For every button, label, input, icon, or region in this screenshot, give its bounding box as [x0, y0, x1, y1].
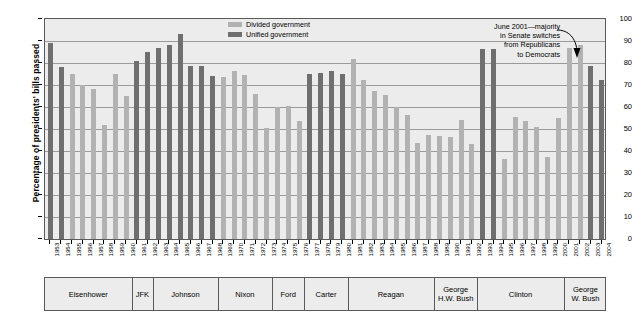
bar-2002	[578, 45, 583, 239]
president-band-label: Johnson	[171, 290, 199, 299]
bar-1975	[286, 106, 291, 239]
president-band-george-h-w-bush: George H.W. Bush	[434, 278, 477, 310]
x-year-label: 1962	[150, 243, 159, 273]
x-year-label: 1956	[85, 243, 94, 273]
bar-1966	[188, 66, 193, 239]
bar-1983	[372, 91, 377, 240]
bar-1980	[340, 74, 345, 239]
bar-1981	[351, 59, 356, 239]
x-year-label: 1986	[409, 243, 418, 273]
x-year-label: 1959	[117, 243, 126, 273]
bar-1997	[523, 121, 528, 239]
x-year-label: 1999	[550, 243, 559, 273]
y-tick-mark	[38, 84, 42, 85]
bar-2000	[556, 118, 561, 239]
bar-1993	[480, 49, 485, 239]
x-year-label: 1967	[204, 243, 213, 273]
x-year-label: 1979	[333, 243, 342, 273]
bar-1996	[513, 117, 518, 239]
y-tick-mark	[38, 216, 42, 217]
annotation-line-3: from Republicans	[450, 40, 560, 49]
bar-1978	[318, 73, 323, 239]
x-year-label: 1970	[236, 243, 245, 273]
legend: Divided government Unified government	[228, 20, 310, 39]
bar-1973	[264, 128, 269, 239]
x-year-label: 1993	[485, 243, 494, 273]
y-tick-mark	[38, 18, 42, 19]
x-year-label: 2001	[571, 243, 580, 273]
bar-1954	[59, 67, 64, 239]
x-year-label: 1969	[225, 243, 234, 273]
president-band-label: Carter	[316, 290, 337, 299]
legend-item-divided: Divided government	[228, 20, 310, 30]
bar-1974	[275, 107, 280, 239]
president-band-separator	[564, 278, 565, 310]
y-tick-mark	[38, 62, 42, 63]
bar-1982	[361, 80, 366, 240]
x-year-label: 1968	[215, 243, 224, 273]
x-year-label: 1998	[539, 243, 548, 273]
bar-1991	[459, 120, 464, 239]
bar-2003	[588, 66, 593, 239]
y-tick-mark	[38, 238, 42, 239]
x-year-label: 1972	[258, 243, 267, 273]
x-year-label: 1975	[290, 243, 299, 273]
x-year-label: 1984	[387, 243, 396, 273]
y-tick-mark	[38, 150, 42, 151]
x-year-label: 1981	[355, 243, 364, 273]
bar-1979	[329, 71, 334, 239]
y-tick-mark	[38, 106, 42, 107]
bar-1992	[469, 144, 474, 239]
chart-root: Percentage of presidents' bills passed 0…	[0, 0, 632, 320]
president-band-separator	[132, 278, 133, 310]
legend-swatch-unified-icon	[228, 32, 242, 37]
x-year-label: 1973	[269, 243, 278, 273]
legend-label-divided: Divided government	[246, 20, 310, 30]
president-band-label: George W. Bush	[571, 285, 599, 303]
president-band-carter: Carter	[304, 278, 347, 310]
bar-1985	[394, 107, 399, 239]
bar-1963	[156, 48, 161, 239]
bar-1955	[70, 74, 75, 239]
bar-1958	[102, 125, 107, 239]
president-band-ford: Ford	[272, 278, 304, 310]
president-band-label: Eisenhower	[69, 290, 108, 299]
x-year-label: 1976	[301, 243, 310, 273]
x-year-label: 1958	[106, 243, 115, 273]
x-year-label: 1995	[506, 243, 515, 273]
bar-1964	[167, 45, 172, 239]
legend-item-unified: Unified government	[228, 30, 310, 40]
annotation-line-4: to Democrats	[450, 50, 560, 59]
y-axis-title: Percentage of presidents' bills passed	[31, 23, 41, 223]
x-year-label: 1988	[431, 243, 440, 273]
bar-1986	[405, 115, 410, 239]
x-year-label: 1978	[323, 243, 332, 273]
bar-1976	[297, 121, 302, 239]
bar-1998	[534, 127, 539, 239]
president-band-clinton: Clinton	[477, 278, 564, 310]
bar-1987	[415, 143, 420, 239]
x-year-label: 1957	[96, 243, 105, 273]
x-year-label: 1960	[128, 243, 137, 273]
president-band-separator	[348, 278, 349, 310]
bar-1960	[124, 96, 129, 239]
bar-1989	[437, 136, 442, 239]
x-year-label: 1989	[442, 243, 451, 273]
president-bands: EisenhowerJFKJohnsonNixonFordCarterReaga…	[44, 277, 606, 311]
president-band-separator	[153, 278, 154, 310]
president-band-reagan: Reagan	[348, 278, 435, 310]
legend-label-unified: Unified government	[246, 30, 308, 40]
president-band-label: Ford	[280, 290, 295, 299]
bar-1962	[145, 52, 150, 239]
bar-1999	[545, 157, 550, 240]
bar-1971	[242, 75, 247, 239]
x-year-label: 1985	[398, 243, 407, 273]
legend-swatch-divided-icon	[228, 22, 242, 27]
x-year-label: 1971	[247, 243, 256, 273]
president-band-separator	[434, 278, 435, 310]
x-year-label: 1982	[366, 243, 375, 273]
president-band-george-w-bush: George W. Bush	[564, 278, 607, 310]
x-year-label: 1965	[182, 243, 191, 273]
president-band-label: George H.W. Bush	[438, 285, 473, 303]
president-band-nixon: Nixon	[218, 278, 272, 310]
